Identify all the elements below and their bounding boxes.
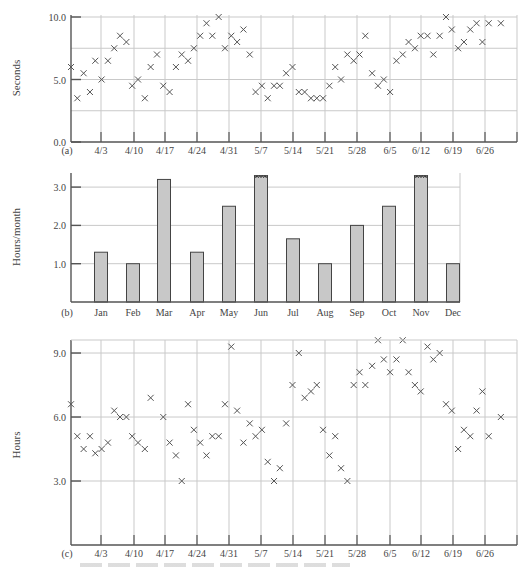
data-point — [314, 95, 320, 101]
data-point — [430, 356, 436, 362]
data-point — [277, 465, 283, 471]
data-point — [74, 433, 80, 439]
data-point — [332, 64, 338, 70]
data-point — [204, 452, 210, 458]
data-point — [240, 440, 246, 446]
data-point — [332, 433, 338, 439]
data-point — [222, 401, 228, 407]
data-point — [449, 27, 455, 33]
data-point — [265, 459, 271, 465]
data-point — [381, 356, 387, 362]
data-point — [142, 446, 148, 452]
data-point — [461, 427, 467, 433]
x-tick-label: Oct — [382, 307, 397, 318]
data-point — [474, 20, 480, 26]
data-point — [142, 95, 148, 101]
bar-mar — [158, 179, 171, 302]
data-point — [449, 408, 455, 414]
data-point — [197, 33, 203, 39]
x-tick-label: 5/28 — [348, 145, 366, 156]
x-tick-label: 5/7 — [255, 548, 268, 559]
bar-dec — [447, 264, 460, 302]
data-point — [173, 452, 179, 458]
data-point — [474, 408, 480, 414]
figure-canvas: 0.05.010.0(a)4/34/104/174/244/315/75/145… — [0, 0, 531, 573]
data-point — [81, 70, 87, 76]
bar-nov — [415, 176, 428, 302]
data-point — [204, 20, 210, 26]
x-tick-label: Apr — [189, 307, 205, 318]
data-point — [197, 440, 203, 446]
data-point — [486, 433, 492, 439]
x-tick-label: Jun — [254, 307, 268, 318]
bar-apr — [191, 252, 204, 302]
data-point — [105, 58, 111, 64]
data-point — [216, 433, 222, 439]
data-point — [425, 344, 431, 350]
data-point — [209, 33, 215, 39]
data-point — [308, 388, 314, 394]
data-point — [92, 58, 98, 64]
bar-oct — [383, 206, 396, 302]
data-point — [173, 64, 179, 70]
x-tick-label: Feb — [126, 307, 141, 318]
data-point — [253, 433, 259, 439]
x-tick-label: 6/12 — [412, 145, 430, 156]
bar-jun — [255, 176, 268, 302]
data-point — [406, 369, 412, 375]
data-point — [400, 52, 406, 58]
data-point — [111, 408, 117, 414]
data-point — [486, 20, 492, 26]
y-tick-label: 3.0 — [54, 182, 67, 193]
data-point — [209, 433, 215, 439]
x-tick-label: 4/24 — [188, 145, 206, 156]
x-tick-label: 6/12 — [412, 548, 430, 559]
x-tick-label: 6/5 — [384, 548, 397, 559]
x-tick-label: 5/28 — [348, 548, 366, 559]
data-point — [302, 89, 308, 95]
data-point — [393, 356, 399, 362]
y-tick-label: 6.0 — [54, 412, 67, 423]
data-point — [87, 89, 93, 95]
data-point — [271, 83, 277, 89]
data-point — [148, 64, 154, 70]
data-point — [87, 433, 93, 439]
x-tick-label: 4/24 — [188, 548, 206, 559]
x-tick-label: 5/21 — [316, 145, 334, 156]
data-point — [74, 95, 80, 101]
x-tick-label: Nov — [412, 307, 429, 318]
data-point — [167, 440, 173, 446]
x-tick-label: May — [220, 307, 238, 318]
bar-aug — [319, 264, 332, 302]
x-tick-label: 5/7 — [255, 145, 268, 156]
data-point — [406, 39, 412, 45]
y-axis-title: Hours — [10, 432, 22, 459]
x-tick-label: 4/10 — [125, 548, 143, 559]
data-point — [234, 39, 240, 45]
data-point — [430, 52, 436, 58]
chart-hours-scatter: 3.06.09.0(c)4/34/104/174/244/315/75/145/… — [10, 337, 517, 560]
panel-label: (b) — [61, 307, 73, 319]
data-point — [117, 33, 123, 39]
y-axis-title: Seconds — [10, 60, 22, 97]
data-point — [467, 433, 473, 439]
x-tick-label: 5/14 — [284, 548, 302, 559]
y-tick-label: 3.0 — [54, 476, 67, 487]
data-point — [425, 33, 431, 39]
data-point — [362, 382, 368, 388]
bar-jul — [287, 239, 300, 302]
y-tick-label: 2.0 — [54, 220, 67, 231]
data-point — [314, 382, 320, 388]
chart-seconds-scatter: 0.05.010.0(a)4/34/104/174/244/315/75/145… — [10, 12, 517, 157]
x-tick-label: 6/19 — [444, 145, 462, 156]
y-tick-label: 1.0 — [54, 259, 67, 270]
x-tick-label: 6/26 — [476, 548, 494, 559]
data-point — [240, 27, 246, 33]
figure: 0.05.010.0(a)4/34/104/174/244/315/75/145… — [0, 0, 531, 573]
data-point — [289, 382, 295, 388]
x-tick-label: 4/17 — [156, 145, 174, 156]
x-tick-label: 4/3 — [95, 548, 108, 559]
data-point — [253, 89, 259, 95]
data-point — [351, 382, 357, 388]
bar-sep — [351, 225, 364, 302]
